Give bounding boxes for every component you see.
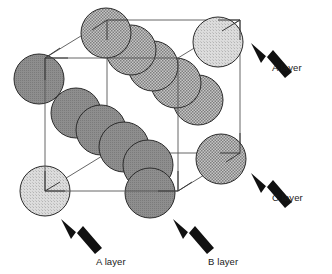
- arrow-a-layer-bottom: [61, 219, 102, 254]
- sphere-a-layer-top-right: [193, 17, 243, 67]
- crystal-structure-figure: A layer C layer A layer B layer: [0, 0, 332, 274]
- annotation-label-a-layer-bottom: A layer: [96, 256, 126, 267]
- annotation-label-b-layer-bottom: B layer: [208, 256, 238, 267]
- sphere-b-layer-chain: [51, 88, 175, 218]
- annotation-label-c-layer-right: C layer: [272, 192, 303, 203]
- sphere-group: [14, 8, 246, 218]
- sphere-c-layer-bottom-right: [196, 134, 246, 184]
- arrow-b-layer-bottom: [173, 219, 214, 254]
- unit-cell-diagram: [0, 0, 332, 274]
- annotation-label-a-layer-top: A layer: [272, 62, 302, 73]
- sphere-b-layer-top-left: [14, 54, 64, 104]
